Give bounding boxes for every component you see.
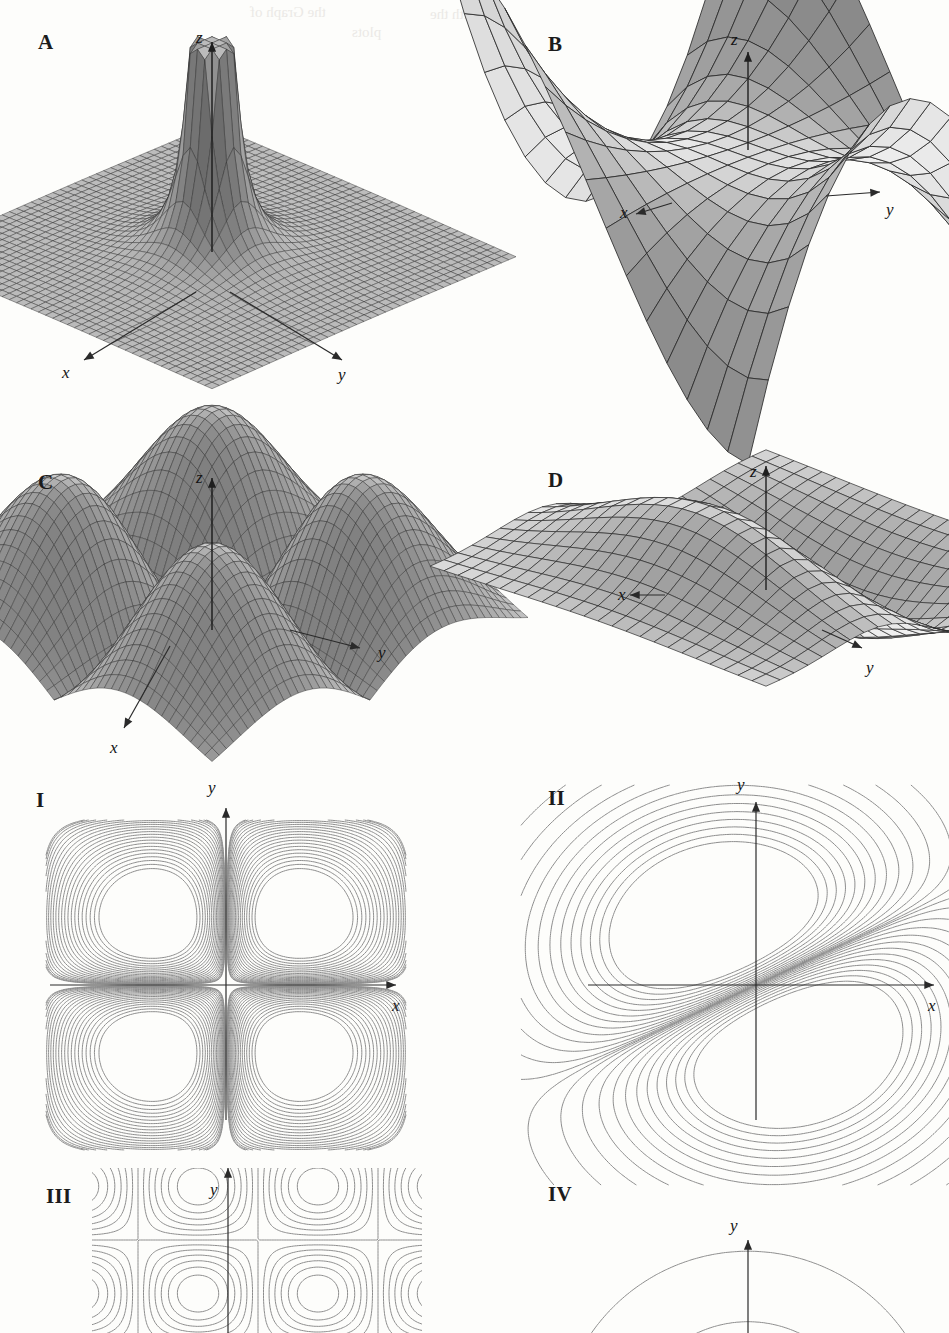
contour-plot-I — [0, 760, 474, 1120]
axis-label-z-D: z — [750, 462, 757, 482]
surface-plot-C — [0, 440, 474, 770]
axis-label-y-D: y — [866, 658, 874, 678]
axis-label-z-C: z — [196, 468, 203, 488]
panel-label-III: III — [46, 1184, 71, 1209]
axis-label-y-I: y — [208, 778, 216, 798]
panel-label-B: B — [548, 32, 562, 57]
panel-label-C: C — [38, 470, 53, 495]
surface-plot-B — [474, 0, 949, 300]
surface-panel-C: C z x y — [0, 440, 474, 770]
panel-label-I: I — [36, 788, 44, 813]
axis-label-z-B: z — [731, 30, 738, 50]
axis-label-x-II: x — [928, 996, 936, 1016]
axis-label-y-III: y — [210, 1180, 218, 1200]
contour-panel-IV: IV y — [474, 1120, 949, 1333]
figure-page: the Graph of with the plots A z x y B z … — [0, 0, 949, 1333]
panel-label-II: II — [548, 786, 565, 811]
axis-label-y-A: y — [338, 365, 346, 385]
contour-panel-III: III y — [0, 1120, 474, 1333]
contour-panel-I: I y x — [0, 760, 474, 1120]
axis-label-x-C: x — [110, 738, 118, 758]
surface-panel-B: B z x y — [474, 0, 949, 300]
surface-plot-D — [474, 440, 949, 740]
panel-label-D: D — [548, 468, 563, 493]
panel-label-IV: IV — [548, 1182, 572, 1207]
contour-plot-II — [474, 760, 949, 1120]
contour-plot-IV — [474, 1120, 949, 1333]
axis-label-x-D: x — [618, 585, 626, 605]
surface-plot-A — [0, 0, 474, 440]
surface-panel-D: D z x y — [474, 440, 949, 740]
surface-panel-A: A z x y — [0, 0, 474, 440]
panel-label-A: A — [38, 30, 53, 55]
axis-label-z-A: z — [196, 28, 203, 48]
axis-label-y-II: y — [737, 775, 745, 795]
axis-label-x-A: x — [62, 363, 70, 383]
axis-label-y-C: y — [378, 643, 386, 663]
axis-label-y-IV: y — [730, 1216, 738, 1236]
axis-label-x-B: x — [620, 203, 628, 223]
axis-label-y-B: y — [886, 200, 894, 220]
contour-panel-II: II y x — [474, 760, 949, 1120]
contour-plot-III — [0, 1120, 474, 1333]
axis-label-x-I: x — [392, 996, 400, 1016]
